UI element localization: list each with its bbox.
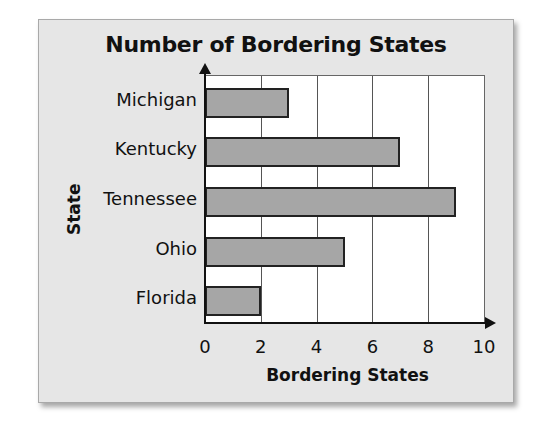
- category-label: Tennessee: [103, 188, 197, 209]
- bar-michigan: [205, 88, 289, 118]
- y-axis-label: State: [64, 185, 84, 235]
- x-axis-arrow-icon: [485, 317, 496, 329]
- x-tick-label: 2: [255, 336, 266, 357]
- bar-florida: [205, 286, 261, 316]
- y-axis: [204, 70, 206, 324]
- x-tick-label: 4: [311, 336, 322, 357]
- x-tick-label: 10: [473, 336, 496, 357]
- bar-kentucky: [205, 137, 400, 167]
- x-tick-label: 0: [199, 336, 210, 357]
- x-tick-label: 6: [367, 336, 378, 357]
- category-label: Florida: [136, 287, 197, 308]
- x-tick-label: 8: [422, 336, 433, 357]
- y-axis-arrow-icon: [199, 63, 211, 74]
- bar-ohio: [205, 237, 345, 267]
- chart-panel: Number of Bordering States MichiganKentu…: [38, 19, 514, 403]
- bar-tennessee: [205, 187, 456, 217]
- category-label: Michigan: [116, 89, 197, 110]
- category-label: Ohio: [155, 238, 197, 259]
- x-axis: [204, 322, 489, 324]
- category-label: Kentucky: [115, 138, 197, 159]
- x-axis-label: Bordering States: [205, 365, 490, 385]
- chart-title: Number of Bordering States: [39, 32, 513, 57]
- plot-area: [205, 75, 485, 324]
